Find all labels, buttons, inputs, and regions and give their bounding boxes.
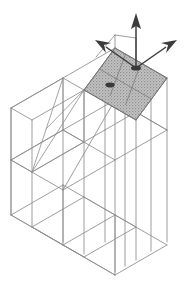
roof-interior-node xyxy=(105,83,114,88)
x-bracing xyxy=(32,78,84,172)
mid-level-floor xyxy=(11,100,167,190)
ground-storey-columns xyxy=(11,100,167,272)
base-plane xyxy=(11,185,167,275)
isometric-frame-diagram xyxy=(0,0,187,292)
roof-load-node xyxy=(131,65,141,70)
right-load-arrow xyxy=(136,40,177,68)
figure-root: Isometric wireframe of a multi-storey st… xyxy=(0,0,187,292)
